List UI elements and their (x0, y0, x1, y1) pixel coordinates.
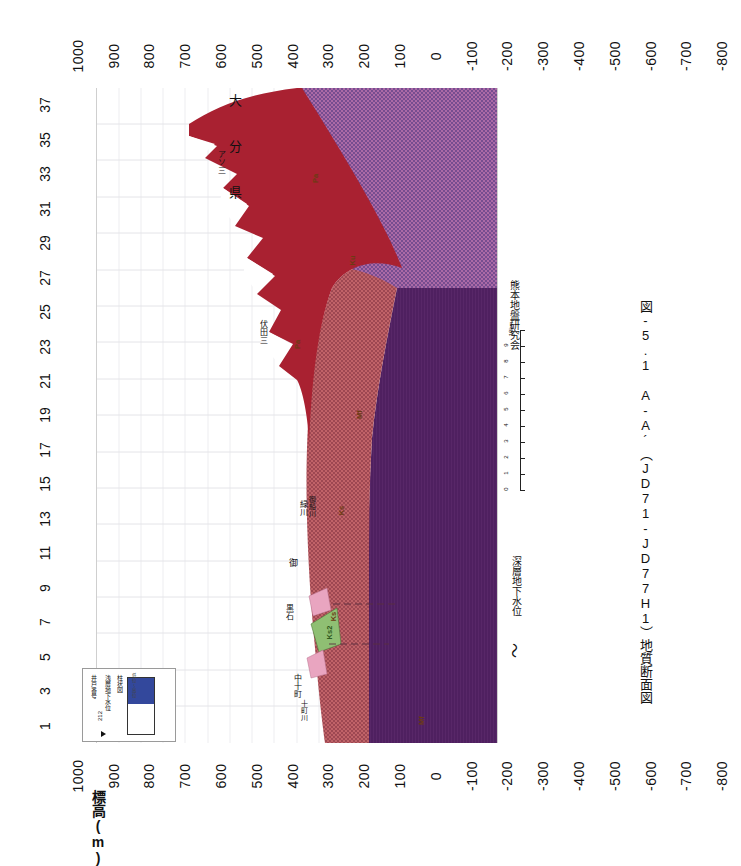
label-jyumachigawa: 十町川 (299, 700, 309, 721)
elevation-tick: -500 (597, 28, 633, 84)
elevation-tick-label: -100 (464, 761, 480, 791)
unit-label-Mf-1: Mf (355, 410, 364, 419)
distance-tick-label: 17 (37, 442, 53, 458)
cross-section-svg (97, 88, 497, 743)
unit-label-Ks-2: Ks (329, 612, 338, 622)
distance-tick-label: 13 (37, 511, 53, 527)
elevation-tick: 300 (311, 28, 347, 84)
distance-tick-label: 9 (37, 584, 53, 592)
elevation-tick-label: 800 (141, 44, 157, 69)
distance-tick-label: 27 (37, 270, 53, 286)
unit-label-Ku: Ku (348, 256, 357, 266)
distance-tick-label: 15 (37, 477, 53, 493)
unit-Mf (368, 288, 497, 743)
elevation-tick-label: 900 (106, 44, 122, 69)
elevation-scale-bottom: 10009008007006005004003002001000-100-200… (60, 748, 740, 808)
elevation-tick-label: 400 (285, 764, 301, 789)
elevation-tick: 500 (239, 28, 275, 84)
elevation-tick-label: -500 (607, 41, 623, 71)
elevation-tick: 800 (132, 748, 168, 804)
unit-label-Ks2: Ks2 (325, 626, 334, 640)
elevation-tick-label: 0 (428, 52, 444, 60)
elevation-tick: -100 (454, 28, 490, 84)
distance-tick: 19 (28, 398, 62, 432)
elevation-tick-label: 600 (213, 44, 229, 69)
legend-bar-caption: 低位〜高位 (130, 673, 136, 698)
label-aso: アソ三 (215, 150, 226, 174)
elevation-tick: -300 (525, 28, 561, 84)
distance-tick-label: 23 (37, 339, 53, 355)
label-prefecture: 大 分 県 (225, 94, 244, 208)
distance-tick-label: 21 (37, 373, 53, 389)
unit-label-Pa-1: Pa (311, 174, 320, 183)
scale-bar-label: 6 (503, 391, 509, 394)
elevation-tick: 600 (203, 28, 239, 84)
distance-tick: 37 (28, 88, 62, 122)
elevation-tick-label: 1000 (70, 759, 86, 792)
scale-bar-label: 8 (503, 359, 509, 362)
scale-bar-tick (520, 442, 525, 443)
distance-tick-label: 7 (37, 618, 53, 626)
distance-tick-label: 19 (37, 408, 53, 424)
elevation-tick-label: -300 (535, 41, 551, 71)
distance-scale: 135791113151719212325272931333537 (28, 88, 62, 743)
elevation-tick: 200 (346, 748, 382, 804)
distance-tick: 9 (28, 571, 62, 605)
elevation-tick: -300 (525, 748, 561, 804)
legend-arrow-icon (101, 731, 106, 737)
scale-bar-tick (520, 490, 525, 491)
elevation-tick-label: 500 (249, 764, 265, 789)
elevation-tick: 0 (418, 28, 454, 84)
scale-bar: 012345678910km (520, 330, 528, 490)
scale-bar-tick (520, 458, 525, 459)
elevation-tick: 700 (167, 748, 203, 804)
unit-label-Pa-2: Pa (293, 340, 302, 349)
distance-tick: 21 (28, 364, 62, 398)
elevation-tick-label: -200 (499, 761, 515, 791)
elevation-tick-label: 0 (428, 772, 444, 780)
elevation-tick-label: -800 (714, 761, 730, 791)
elevation-tick: -500 (597, 748, 633, 804)
elevation-tick-label: 800 (141, 764, 157, 789)
unit-label-Ks-1: Ks (337, 506, 346, 516)
elevation-tick-label: 100 (392, 764, 408, 789)
elevation-tick-label: 600 (213, 764, 229, 789)
elevation-tick: 600 (203, 748, 239, 804)
elevation-tick: 400 (275, 28, 311, 84)
distance-tick: 23 (28, 329, 62, 363)
elevation-tick: -800 (704, 28, 740, 84)
distance-tick: 27 (28, 260, 62, 294)
label-kuroishi: 黒石 (283, 604, 294, 620)
elevation-tick-label: 1000 (70, 39, 86, 72)
elevation-tick: 1000 (60, 748, 96, 804)
distance-tick-label: 37 (37, 97, 53, 113)
distance-tick-label: 3 (37, 687, 53, 695)
elevation-tick-label: 200 (356, 44, 372, 69)
groundwater-symbol: 〜 (503, 643, 524, 658)
elevation-tick: 0 (418, 748, 454, 804)
elevation-tick-label: 500 (249, 44, 265, 69)
organization-name: 熊本地盤研究会 (506, 280, 521, 350)
distance-tick-label: 11 (37, 546, 53, 561)
label-fushida: 伏田三 (257, 320, 268, 344)
distance-tick-label: 1 (37, 722, 53, 730)
elevation-tick-label: 700 (177, 764, 193, 789)
elevation-tick-label: -800 (714, 41, 730, 71)
legend-title-well-number: 井戸番号 (89, 675, 98, 699)
elevation-tick: -800 (704, 748, 740, 804)
elevation-tick: 400 (275, 748, 311, 804)
distance-tick-label: 25 (37, 304, 53, 320)
scale-bar-label: 2 (503, 455, 509, 458)
elevation-tick: -700 (668, 28, 704, 84)
elevation-tick: 900 (96, 748, 132, 804)
elevation-tick-label: 200 (356, 764, 372, 789)
legend-box: 井戸番号 浅層地下水位 柱状図 低位〜高位 212 (82, 668, 176, 742)
elevation-tick: 800 (132, 28, 168, 84)
elevation-tick: -400 (561, 748, 597, 804)
scale-bar-label: 1 (503, 471, 509, 474)
elevation-tick-label: -100 (464, 41, 480, 71)
distance-tick-label: 35 (37, 132, 53, 148)
distance-tick: 29 (28, 226, 62, 260)
elevation-tick-label: -400 (571, 761, 587, 791)
